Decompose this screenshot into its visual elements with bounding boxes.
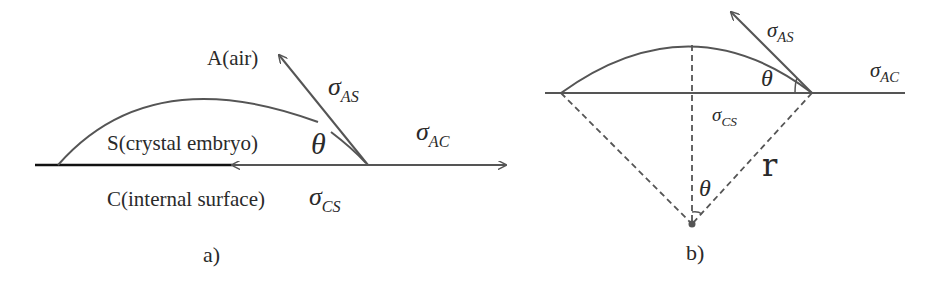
- center-angle-arc: [692, 212, 702, 214]
- sigma-symbol: σ: [712, 104, 721, 125]
- air-label: A(air): [207, 48, 258, 69]
- sigma-subscript: AS: [777, 29, 793, 45]
- sigma-subscript: CS: [322, 198, 341, 215]
- sigma-ac-label-a: σAC: [416, 119, 449, 150]
- center-dot: [689, 221, 696, 228]
- theta-label-b-center: θ: [699, 176, 711, 200]
- sigma-cs-label-b: σCS: [712, 105, 737, 128]
- panel-a-caption: a): [203, 244, 220, 266]
- panel-b-caption: b): [686, 242, 704, 264]
- sigma-symbol: σ: [328, 72, 341, 101]
- sigma-symbol: σ: [767, 18, 777, 42]
- radius-label: r: [762, 149, 777, 181]
- sigma-as-label-b: σAS: [767, 20, 794, 45]
- internal-surface-label: C(internal surface): [107, 189, 265, 210]
- sigma-symbol: σ: [870, 58, 880, 82]
- sigma-subscript: CS: [721, 114, 737, 129]
- sigma-cs-label-a: σCS: [309, 184, 341, 215]
- crystal-embryo-arc-tail: [331, 132, 366, 163]
- theta-label-b-top: θ: [761, 66, 773, 90]
- radius-left-dashed: [561, 93, 692, 224]
- sigma-as-label-a: σAS: [328, 74, 359, 105]
- crystal-embryo-label: S(crystal embryo): [107, 133, 258, 154]
- sigma-symbol: σ: [309, 182, 322, 211]
- sigma-symbol: σ: [416, 117, 429, 146]
- sigma-subscript: AS: [341, 88, 359, 105]
- radius-right-dashed: [692, 93, 812, 224]
- theta-label-a: θ: [311, 129, 326, 159]
- sigma-subscript: AC: [429, 133, 450, 150]
- sigma-ac-label-b: σAC: [870, 60, 899, 85]
- embryo-arc: [561, 47, 812, 94]
- sigma-subscript: AC: [880, 69, 899, 85]
